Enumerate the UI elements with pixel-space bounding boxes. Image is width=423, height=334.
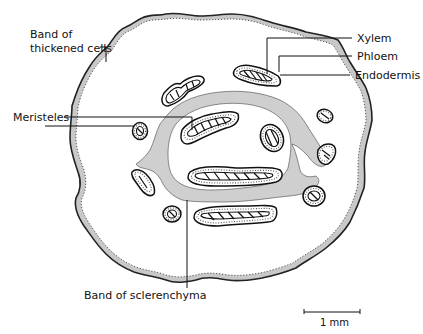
label-phloem: Phloem	[357, 50, 398, 63]
label-band-thickened-line1: Band of	[30, 28, 73, 41]
label-band-sclerenchyma: Band of sclerenchyma	[84, 289, 206, 302]
meristele	[133, 123, 148, 140]
label-meristeles: Meristeles	[13, 111, 69, 124]
scale-bar: 1 mm	[304, 309, 360, 328]
label-endodermis: Endodermis	[355, 69, 420, 82]
meristele	[303, 186, 325, 206]
scale-bar-label: 1 mm	[320, 317, 349, 328]
label-xylem: Xylem	[357, 32, 392, 45]
meristele	[188, 167, 282, 186]
meristele	[163, 206, 181, 222]
rhizome-section-diagram: Band of thickened cells Xylem Phloem End…	[0, 0, 423, 334]
meristele	[194, 206, 277, 227]
label-band-thickened-line2: thickened cells	[30, 42, 112, 55]
